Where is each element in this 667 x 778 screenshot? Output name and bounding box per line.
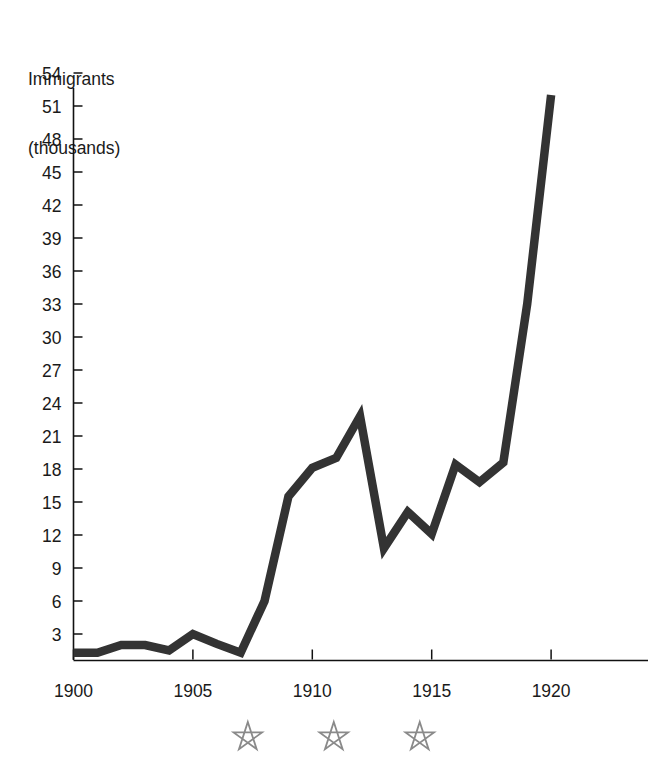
y-tick-label: 21 — [42, 427, 61, 447]
y-tick-label: 9 — [52, 559, 62, 579]
x-tick-label: 1910 — [293, 681, 332, 701]
x-axis-tick-labels: 19001905191019151920 — [54, 681, 571, 701]
y-tick-label: 33 — [42, 295, 61, 315]
y-tick-label: 12 — [42, 526, 61, 546]
y-tick-label: 54 — [42, 64, 62, 84]
x-tick-label: 1900 — [54, 681, 93, 701]
x-axis: 19001905191019151920 — [54, 650, 648, 702]
x-tick-label: 1905 — [173, 681, 212, 701]
y-tick-label: 30 — [42, 328, 62, 348]
star-annotations — [234, 722, 434, 749]
immigrants-series-line — [74, 95, 552, 653]
y-tick-label: 48 — [42, 130, 61, 150]
y-tick-label: 15 — [42, 493, 61, 513]
y-tick-label: 24 — [42, 394, 62, 414]
y-tick-label: 39 — [42, 229, 61, 249]
x-tick-label: 1920 — [532, 681, 571, 701]
immigrants-line-chart: Immigrants (thousands) 36912151821242730… — [0, 0, 667, 778]
y-tick-label: 51 — [42, 97, 61, 117]
y-axis-tick-marks — [74, 73, 83, 634]
y-tick-label: 42 — [42, 196, 61, 216]
y-tick-label: 45 — [42, 163, 61, 183]
y-tick-label: 27 — [42, 361, 61, 381]
y-axis: 369121518212427303336394245485154 — [42, 64, 82, 661]
y-tick-label: 3 — [52, 625, 62, 645]
y-axis-tick-labels: 369121518212427303336394245485154 — [42, 64, 62, 645]
plot-area: 369121518212427303336394245485154 190019… — [0, 0, 667, 778]
star-icon — [320, 722, 349, 749]
y-tick-label: 18 — [42, 460, 61, 480]
y-tick-label: 36 — [42, 262, 61, 282]
star-icon — [234, 722, 263, 749]
y-tick-label: 6 — [52, 592, 62, 612]
x-tick-label: 1915 — [412, 681, 451, 701]
x-axis-tick-marks — [74, 650, 552, 660]
star-icon — [405, 722, 434, 749]
